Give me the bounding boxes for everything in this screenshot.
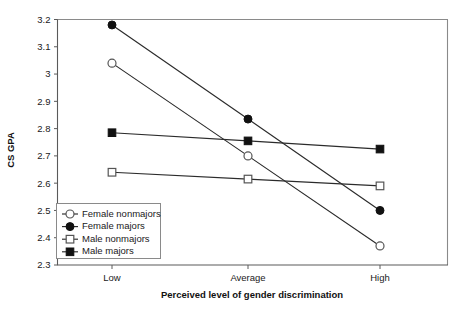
y-tick-label: 2.3: [37, 259, 50, 270]
y-tick-label: 3.2: [37, 14, 50, 25]
series-female-majors: [108, 21, 384, 214]
data-point: [244, 175, 252, 183]
x-tick-label: Average: [230, 272, 265, 283]
y-tick-label: 2.9: [37, 96, 50, 107]
y-tick-label: 2.4: [37, 232, 50, 243]
data-point: [108, 21, 116, 29]
data-point: [376, 182, 384, 190]
data-point: [376, 242, 384, 250]
x-tick-label: Low: [103, 272, 121, 283]
y-tick-label: 3: [45, 68, 50, 79]
legend-marker: [66, 210, 74, 218]
y-tick-label: 2.6: [37, 178, 50, 189]
legend: Female nonmajorsFemale majorsMale nonmaj…: [57, 204, 161, 259]
data-point: [108, 168, 116, 176]
data-point: [244, 115, 252, 123]
line-chart: 3.23.132.92.82.72.62.52.42.3 LowAverageH…: [0, 0, 464, 312]
legend-item-label: Female majors: [82, 220, 145, 231]
series-male-nonmajors: [108, 168, 384, 189]
legend-marker: [66, 235, 74, 243]
x-axis-title: Perceived level of gender discrimination: [161, 289, 343, 300]
series-male-majors: [108, 129, 384, 153]
y-tick-label: 2.8: [37, 123, 50, 134]
y-tick-label: 2.5: [37, 205, 50, 216]
y-axis-ticks: 3.23.132.92.82.72.62.52.42.3: [37, 14, 57, 271]
y-tick-label: 3.1: [37, 41, 50, 52]
legend-marker: [66, 248, 74, 256]
data-point: [376, 206, 384, 214]
legend-item-label: Male nonmajors: [82, 233, 150, 244]
data-point: [376, 145, 384, 153]
x-tick-label: High: [370, 272, 390, 283]
x-axis-ticks: LowAverageHigh: [103, 265, 389, 283]
legend-item-label: Female nonmajors: [82, 208, 161, 219]
data-point: [244, 152, 252, 160]
data-point: [244, 137, 252, 145]
legend-item-label: Male majors: [82, 245, 134, 256]
data-point: [108, 59, 116, 67]
chart-container: 3.23.132.92.82.72.62.52.42.3 LowAverageH…: [0, 0, 464, 312]
y-axis-title: CS GPA: [5, 132, 16, 168]
y-tick-label: 2.7: [37, 150, 50, 161]
legend-marker: [66, 223, 74, 231]
data-point: [108, 129, 116, 137]
